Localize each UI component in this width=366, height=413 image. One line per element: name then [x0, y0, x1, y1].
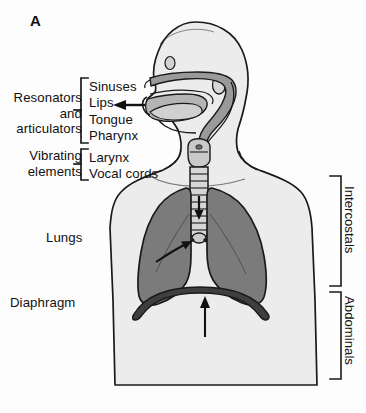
- label-vocal-cords: Vocal cords: [89, 166, 158, 182]
- bracket-resonators: [81, 78, 88, 143]
- anatomy-illustration: [0, 0, 366, 413]
- label-sinuses: Sinuses: [89, 79, 137, 95]
- bracket-intercostals: [330, 176, 341, 286]
- bracket-vibrating: [81, 149, 88, 180]
- group-label-resonators-and-articulators: Resonators and articulators: [2, 90, 82, 137]
- label-pharynx: Pharynx: [89, 128, 138, 144]
- right-brackets: [330, 176, 341, 379]
- label-larynx: Larynx: [89, 150, 129, 166]
- respiratory-system-figure: A Resonators and articulators Vibrating …: [0, 0, 366, 413]
- label-lungs: Lungs: [46, 230, 82, 246]
- label-diaphragm: Diaphragm: [10, 295, 75, 311]
- label-intercostals: Intercostals: [342, 186, 357, 253]
- bracket-abdominals: [330, 292, 341, 379]
- label-tongue: Tongue: [89, 112, 133, 128]
- group-label-vibrating-elements: Vibrating elements: [2, 148, 82, 179]
- mouth-airflow-arrow: [113, 100, 145, 110]
- panel-letter: A: [30, 12, 41, 29]
- label-abdominals: Abdominals: [342, 296, 357, 365]
- label-lips: Lips: [89, 95, 114, 111]
